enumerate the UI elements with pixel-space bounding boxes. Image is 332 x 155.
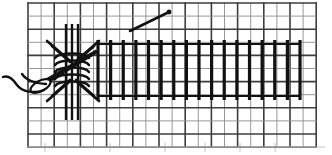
needlework-diagram [0,0,332,155]
working-thread-endpoint [167,10,172,15]
stitch-diagram-screenshot [0,0,332,155]
